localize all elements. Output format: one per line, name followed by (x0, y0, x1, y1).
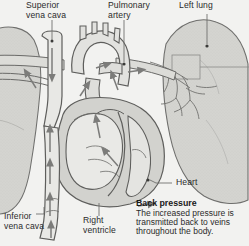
label-heart: Heart (176, 178, 198, 188)
caption-title: Back pressure (136, 198, 197, 208)
label-pulmonary-artery: Pulmonary artery (108, 1, 150, 20)
heart-shape (56, 98, 165, 207)
caption-line-3: throughout the body. (136, 227, 213, 236)
label-superior-vena-cava: Superior vena cava (26, 1, 66, 20)
illustration-stage: Superior vena cava Pulmonary artery Left… (0, 0, 249, 246)
label-left-lung: Left lung (179, 1, 213, 11)
label-inferior-vena-cava: Inferior vena cava (4, 212, 44, 231)
label-right-ventricle: Right ventricle (83, 216, 116, 235)
